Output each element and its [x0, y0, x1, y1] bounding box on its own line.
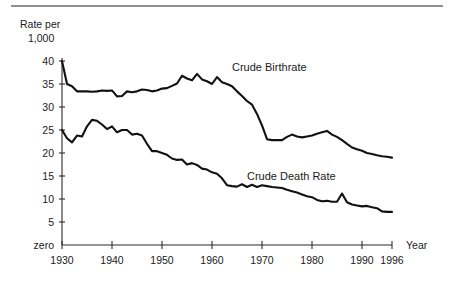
line-chart-svg: Rate per 1,000 Year zero510152025303540 … — [0, 0, 453, 284]
x-axis-title: Year — [406, 239, 428, 251]
x-tick-label: 1950 — [150, 254, 174, 266]
y-tick-label: 20 — [42, 147, 54, 159]
x-axis-tick-labels: 19301940195019601970198019901996 — [50, 254, 404, 266]
x-tick-label: 1930 — [50, 254, 74, 266]
x-tick-label: 1970 — [250, 254, 274, 266]
series-label-crude-birthrate: Crude Birthrate — [232, 61, 307, 73]
y-tick-label: 40 — [42, 55, 54, 67]
series-line-crude-birthrate — [62, 61, 392, 158]
y-tick-label: 30 — [42, 101, 54, 113]
x-tick-label: 1960 — [200, 254, 224, 266]
y-tick-label: 15 — [42, 170, 54, 182]
y-axis-title-line2: 1,000 — [28, 32, 54, 44]
chart-figure: Rate per 1,000 Year zero510152025303540 … — [0, 0, 453, 284]
x-tick-label: 1996 — [380, 254, 404, 266]
y-tick-label: zero — [34, 239, 55, 251]
series-label-crude-death-rate: Crude Death Rate — [247, 170, 336, 182]
y-tick-label: 10 — [42, 193, 54, 205]
y-tick-label: 25 — [42, 124, 54, 136]
x-tick-label: 1990 — [350, 254, 374, 266]
y-axis-tick-labels: zero510152025303540 — [34, 55, 55, 251]
series-line-crude-death-rate — [62, 120, 392, 212]
x-tick-label: 1980 — [300, 254, 324, 266]
x-tick-label: 1940 — [100, 254, 124, 266]
y-axis-title-line1: Rate per — [20, 18, 61, 30]
y-tick-label: 35 — [42, 78, 54, 90]
y-tick-label: 5 — [48, 216, 54, 228]
